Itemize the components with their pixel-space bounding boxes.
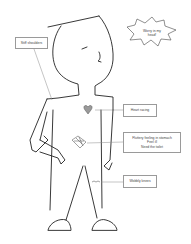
label-text: Heart racing xyxy=(131,108,149,112)
butterfly-icon xyxy=(72,136,86,148)
torso-right xyxy=(101,110,102,208)
nose xyxy=(98,52,101,62)
label-wobbly-knees: Wobbly knees xyxy=(123,175,157,188)
head-outline xyxy=(47,16,113,110)
label-text: Stiff shoulders xyxy=(21,41,42,45)
left-arm xyxy=(30,99,48,152)
thought-bubble-text: Worry in my head! xyxy=(136,29,168,37)
label-heart-racing: Heart racing xyxy=(123,104,157,117)
leg-inner-left xyxy=(66,166,83,220)
thought-line-2: head! xyxy=(136,33,168,37)
label-stomach: Fluttery feeling in stomach Feel ill Nee… xyxy=(123,132,181,153)
label-text: Wobbly knees xyxy=(129,179,150,183)
left-foot xyxy=(48,219,71,230)
eye-left xyxy=(82,47,87,49)
label-stiff-shoulders: Stiff shoulders xyxy=(15,37,48,49)
torso-left xyxy=(50,110,53,210)
right-arm xyxy=(104,110,113,170)
right-foot xyxy=(92,220,117,230)
left-hand xyxy=(40,140,65,164)
hair-line xyxy=(48,16,99,27)
heart-icon xyxy=(84,106,92,114)
label-text-line-3: Need the toilet xyxy=(141,145,163,149)
leg-inner-right xyxy=(85,166,97,218)
wobble-icon xyxy=(92,181,100,182)
